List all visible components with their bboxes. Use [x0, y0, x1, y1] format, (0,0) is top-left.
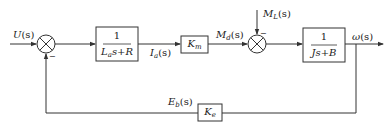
block-emf-constant-label: Ke — [198, 107, 222, 119]
signal-load-torque-label: ML(s) — [263, 9, 291, 21]
signal-output-label: ω(s) — [352, 32, 373, 42]
signal-back-emf-label: Eb(s) — [168, 97, 193, 109]
block-diagram: U(s) Ia(s) Md(s) ML(s) ω(s) Eb(s) − − 1 … — [0, 0, 392, 132]
block-mechanical-denominator: Js+B — [303, 48, 345, 58]
minus-sign-sum2: − — [260, 30, 267, 38]
signal-motor-torque-label: Md(s) — [216, 30, 244, 42]
block-torque-constant-label: Km — [181, 39, 208, 51]
block-electrical-denominator: Las+R — [96, 47, 138, 59]
block-electrical-numerator: 1 — [96, 31, 138, 41]
block-mechanical-numerator: 1 — [303, 32, 345, 42]
signal-armature-current-label: Ia(s) — [150, 48, 171, 60]
signal-input-label: U(s) — [13, 30, 34, 40]
minus-sign-sum1: − — [49, 53, 56, 61]
diagram-lines — [0, 0, 392, 132]
